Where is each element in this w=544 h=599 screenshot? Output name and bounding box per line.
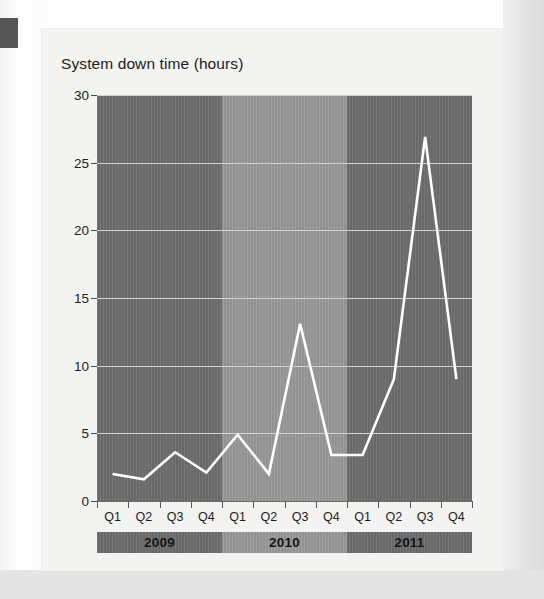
x-tick-mark-1 <box>128 501 129 508</box>
x-tick-mark-9 <box>378 501 379 508</box>
chart-figure-panel: System down time (hours) 051015202530 Q1… <box>42 29 503 570</box>
x-tick-mark-0 <box>97 501 98 508</box>
x-tick-mark-2 <box>160 501 161 508</box>
year-bar-label-2010: 2010 <box>269 535 300 550</box>
y-axis-labels: 051015202530 <box>57 29 89 570</box>
year-bar-segment-2011: 2011 <box>347 532 472 553</box>
x-tick-mark-5 <box>253 501 254 508</box>
x-tick-label-11: Q4 <box>436 510 476 524</box>
page-left-edge <box>0 0 42 599</box>
data-line-series <box>97 95 472 501</box>
x-tick-mark-6 <box>285 501 286 508</box>
x-tick-mark-8 <box>347 501 348 508</box>
margin-marker-block <box>0 18 18 48</box>
page-bottom-edge <box>0 570 544 599</box>
y-tick-label-10: 10 <box>59 358 89 373</box>
year-bar-label-2009: 2009 <box>144 535 175 550</box>
year-bar-label-2011: 2011 <box>394 535 424 550</box>
year-bar-segment-2010: 2010 <box>222 532 347 553</box>
y-tick-label-20: 20 <box>59 223 89 238</box>
x-tick-mark-4 <box>222 501 223 508</box>
y-tick-label-15: 15 <box>59 291 89 306</box>
page-right-edge <box>503 0 544 599</box>
x-tick-mark-10 <box>410 501 411 508</box>
y-tick-label-0: 0 <box>59 494 89 509</box>
x-tick-mark-11 <box>441 501 442 508</box>
year-bar-segment-2009: 2009 <box>97 532 222 553</box>
plot-area <box>97 95 472 501</box>
x-tick-mark-3 <box>191 501 192 508</box>
x-tick-mark-12 <box>472 501 473 508</box>
y-tick-label-30: 30 <box>59 88 89 103</box>
y-tick-label-5: 5 <box>59 426 89 441</box>
y-tick-label-25: 25 <box>59 155 89 170</box>
year-group-bar: 200920102011 <box>97 532 472 553</box>
x-tick-mark-7 <box>316 501 317 508</box>
